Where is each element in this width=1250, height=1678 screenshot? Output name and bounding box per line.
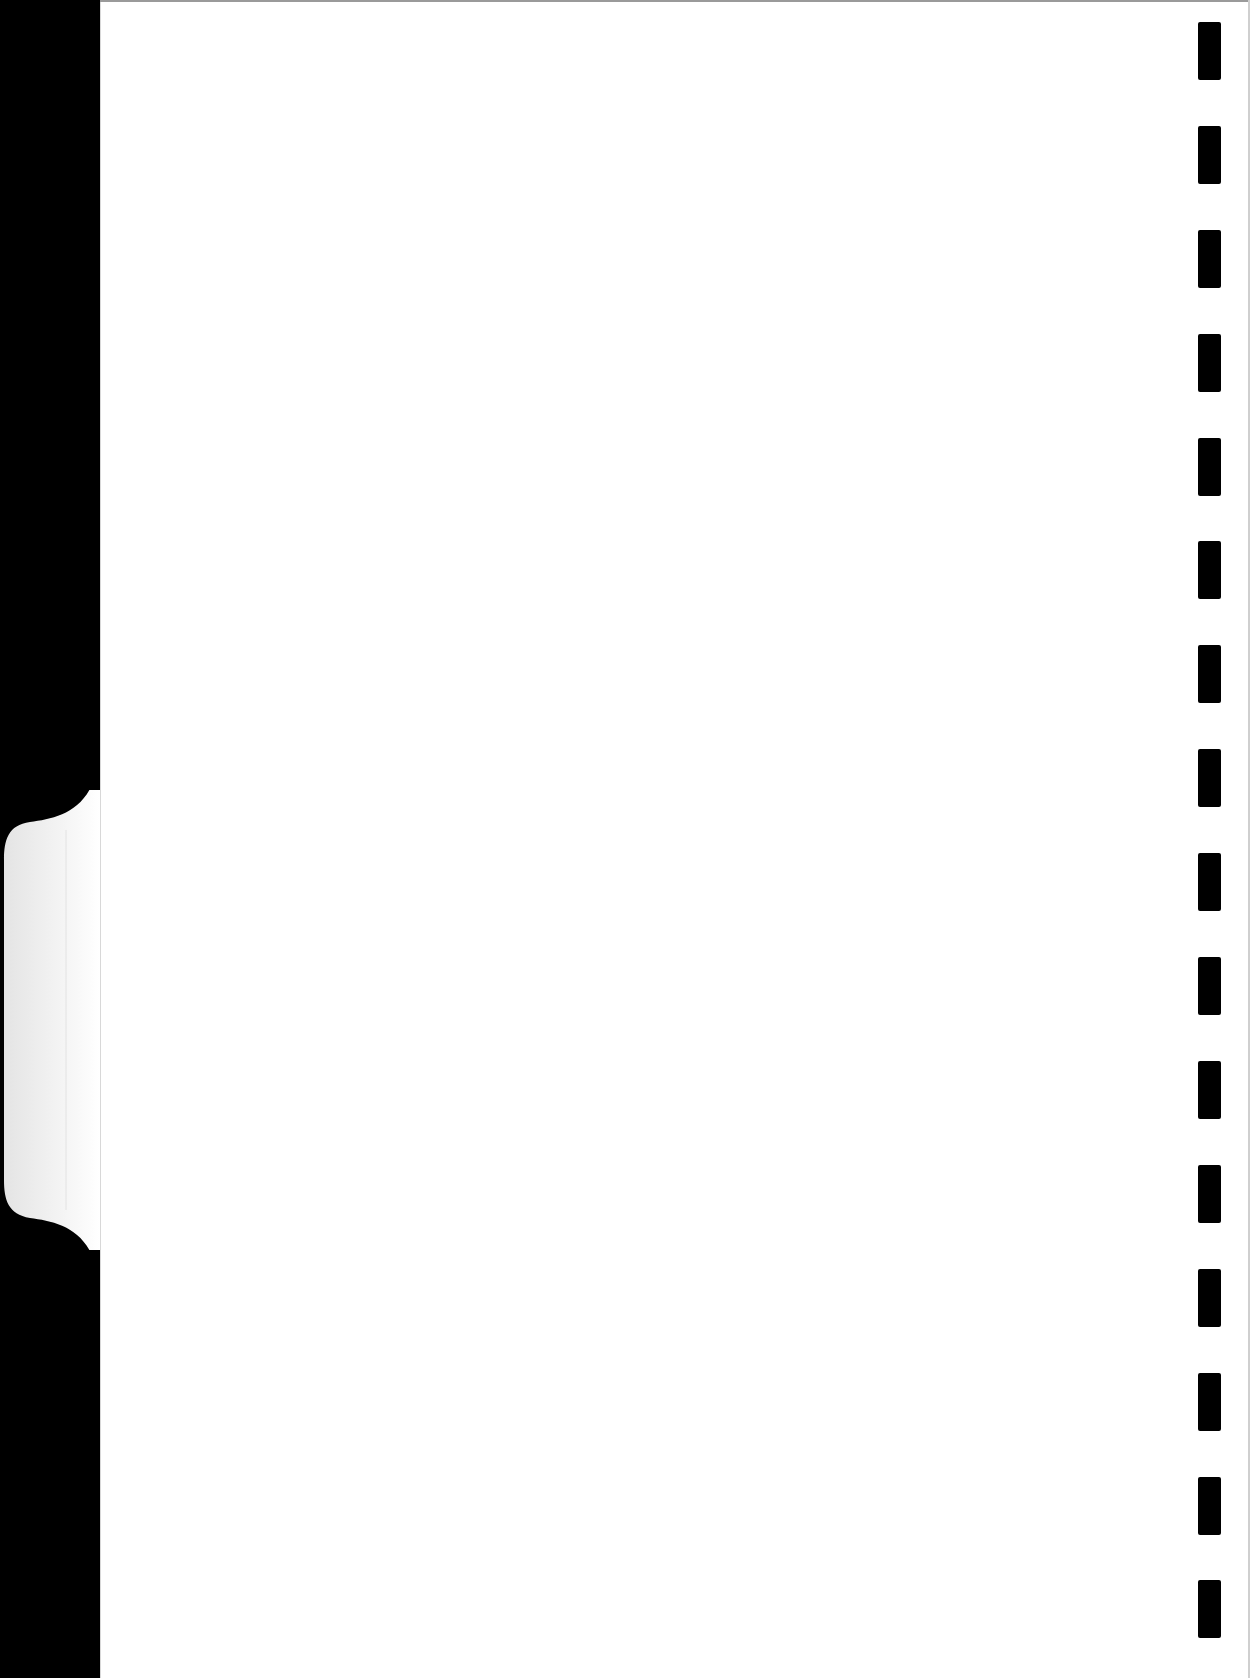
- binding-mark: [1198, 645, 1221, 703]
- binding-mark: [1198, 126, 1221, 184]
- blank-page: [100, 0, 1181, 1678]
- binding-mark: [1198, 1580, 1221, 1638]
- binding-mark: [1198, 1165, 1221, 1223]
- binding-mark: [1198, 334, 1221, 392]
- binding-mark: [1198, 230, 1221, 288]
- binding-mark: [1198, 853, 1221, 911]
- binding-mark: [1198, 1373, 1221, 1431]
- binding-mark: [1198, 957, 1221, 1015]
- binding-mark: [1198, 1269, 1221, 1327]
- binding-marks: [1198, 0, 1228, 1678]
- tab-shape: [0, 790, 100, 1250]
- divider-tab: [0, 790, 100, 1250]
- binding-mark: [1198, 22, 1221, 80]
- page-top-edge: [100, 0, 1250, 2]
- binding-mark: [1198, 1061, 1221, 1119]
- binding-mark: [1198, 438, 1221, 496]
- binding-mark: [1198, 749, 1221, 807]
- binding-mark: [1198, 541, 1221, 599]
- binding-mark: [1198, 1477, 1221, 1535]
